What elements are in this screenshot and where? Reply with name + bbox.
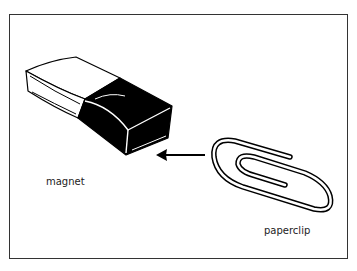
paperclip-icon — [214, 140, 331, 209]
arrow-icon — [156, 149, 205, 161]
paperclip-label: paperclip — [264, 225, 310, 236]
magnet-icon — [26, 57, 172, 155]
magnet-label: magnet — [46, 176, 85, 187]
